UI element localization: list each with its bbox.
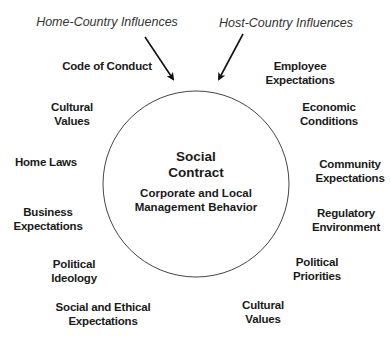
label-line: Economic: [300, 100, 358, 114]
label-line: Priorities: [293, 269, 341, 283]
home-influence-political-ideology: Political Ideology: [51, 257, 97, 285]
home-influence-business-expectations: Business Expectations: [13, 205, 82, 233]
host-influence-employee-expectations: Employee Expectations: [265, 59, 334, 87]
label-line: Employee: [265, 59, 334, 73]
host-influence-political-priorities: Political Priorities: [293, 255, 341, 283]
label-line: Cultural: [51, 100, 93, 114]
host-influence-cultural-values: Cultural Values: [242, 298, 284, 326]
host-influence-community-expectations: Community Expectations: [315, 157, 384, 185]
home-influence-cultural-values: Cultural Values: [51, 100, 93, 128]
label-line: Political: [51, 257, 97, 271]
label-line: Home Laws: [15, 155, 77, 169]
label-line: Expectations: [265, 73, 334, 87]
host-country-header: Host-Country Influences: [219, 16, 353, 30]
label-line: Environment: [312, 220, 380, 234]
label-line: Conditions: [300, 114, 358, 128]
social-contract-subtitle: Corporate and Local Management Behavior: [135, 186, 258, 214]
home-influence-social-ethical-expectations: Social and Ethical Expectations: [56, 300, 151, 328]
label-line: Expectations: [315, 171, 384, 185]
label-line: Expectations: [56, 314, 151, 328]
subtitle-line: Management Behavior: [135, 200, 258, 214]
title-line: Contract: [168, 165, 224, 181]
subtitle-line: Corporate and Local: [135, 186, 258, 200]
home-influence-code-of-conduct: Code of Conduct: [62, 59, 152, 73]
label-line: Values: [242, 312, 284, 326]
host-influence-economic-conditions: Economic Conditions: [300, 100, 358, 128]
label-line: Ideology: [51, 271, 97, 285]
label-line: Values: [51, 114, 93, 128]
label-line: Cultural: [242, 298, 284, 312]
label-line: Political: [293, 255, 341, 269]
label-line: Regulatory: [312, 206, 380, 220]
label-line: Expectations: [13, 219, 82, 233]
label-line: Community: [315, 157, 384, 171]
social-contract-title: Social Contract: [168, 149, 224, 181]
label-line: Code of Conduct: [62, 59, 152, 73]
home-country-header: Home-Country Influences: [36, 15, 178, 29]
home-influence-home-laws: Home Laws: [15, 155, 77, 169]
label-line: Social and Ethical: [56, 300, 151, 314]
host-influence-regulatory-environment: Regulatory Environment: [312, 206, 380, 234]
label-line: Business: [13, 205, 82, 219]
title-line: Social: [168, 149, 224, 165]
host-arrow-icon: [219, 34, 243, 79]
social-contract-circle: [103, 91, 289, 277]
